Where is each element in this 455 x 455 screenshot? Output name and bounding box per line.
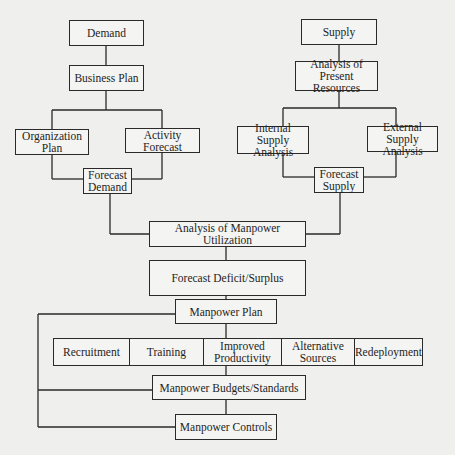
action-improved-productivity: Improved Productivity <box>204 339 282 365</box>
forecast-deficit-surplus-label: Forecast Deficit/Surplus <box>171 272 283 284</box>
forecast-supply-box: Forecast Supply <box>314 167 364 193</box>
external-supply-analysis-label-1: External Supply <box>368 121 437 145</box>
internal-supply-analysis-label-2: Supply Analysis <box>238 134 308 158</box>
manpower-plan-box: Manpower Plan <box>175 299 277 324</box>
action-training-label: Training <box>147 346 186 358</box>
activity-forecast-label-2: Forecast <box>143 141 182 153</box>
forecast-demand-box: Forecast Demand <box>83 168 132 194</box>
organization-plan-box: Organization Plan <box>15 129 89 155</box>
forecast-deficit-surplus-box: Forecast Deficit/Surplus <box>149 260 306 296</box>
action-recruitment-label: Recruitment <box>63 346 120 358</box>
action-improved-productivity-label-2: Productivity <box>214 352 271 364</box>
manpower-budgets-standards-box: Manpower Budgets/Standards <box>152 375 306 400</box>
action-recruitment: Recruitment <box>54 339 130 365</box>
action-redeployment-label: Redeployment <box>355 346 422 358</box>
action-redeployment: Redeployment <box>355 339 422 365</box>
manpower-budgets-standards-label: Manpower Budgets/Standards <box>160 382 299 394</box>
manpower-plan-label: Manpower Plan <box>189 306 262 318</box>
analysis-manpower-utilization-box: Analysis of Manpower Utilization <box>149 221 306 247</box>
forecast-supply-label-2: Supply <box>323 180 356 192</box>
action-improved-productivity-label-1: Improved <box>220 340 265 352</box>
forecast-demand-label-1: Forecast <box>88 169 127 181</box>
analysis-present-resources-label-1: Analysis of <box>310 58 363 70</box>
action-alternative-sources-label-2: Sources <box>300 352 336 364</box>
action-alternative-sources: Alternative Sources <box>282 339 355 365</box>
forecast-demand-label-2: Demand <box>88 181 127 193</box>
external-supply-analysis-box: External Supply Analysis <box>367 126 438 152</box>
supply-box: Supply <box>301 19 377 45</box>
internal-supply-analysis-box: Internal Supply Analysis <box>237 126 309 154</box>
action-alternative-sources-label-1: Alternative <box>292 340 344 352</box>
internal-supply-analysis-label-1: Internal <box>255 122 291 134</box>
business-plan-box: Business Plan <box>69 65 144 91</box>
organization-plan-label-1: Organization <box>22 130 82 142</box>
analysis-manpower-utilization-label: Analysis of Manpower Utilization <box>150 222 305 246</box>
forecast-supply-label-1: Forecast <box>320 168 359 180</box>
manpower-controls-box: Manpower Controls <box>175 414 277 440</box>
activity-forecast-label-1: Activity <box>144 129 182 141</box>
manpower-controls-label: Manpower Controls <box>180 421 272 433</box>
external-supply-analysis-label-2: Analysis <box>382 145 422 157</box>
demand-label: Demand <box>87 27 126 39</box>
organization-plan-label-2: Plan <box>42 142 62 154</box>
analysis-present-resources-box: Analysis of Present Resources <box>295 61 378 91</box>
business-plan-label: Business Plan <box>74 72 138 84</box>
supply-label: Supply <box>323 26 356 38</box>
manpower-actions-row: Recruitment Training Improved Productivi… <box>53 338 423 366</box>
analysis-present-resources-label-2: Present Resources <box>296 70 377 94</box>
action-training: Training <box>130 339 204 365</box>
activity-forecast-box: Activity Forecast <box>125 128 200 153</box>
demand-box: Demand <box>69 20 144 46</box>
